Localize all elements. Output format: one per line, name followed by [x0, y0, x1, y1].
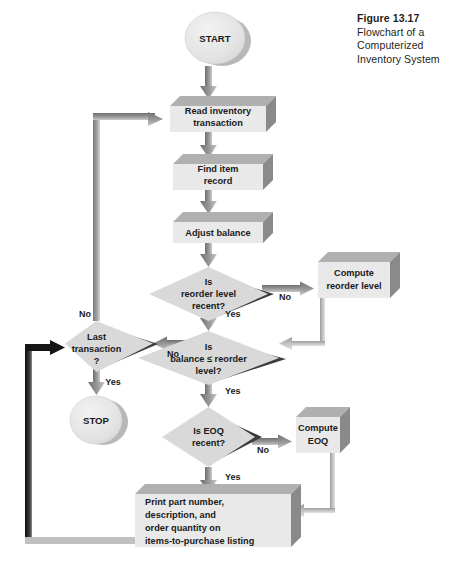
node-balance-line-3: level?	[195, 366, 221, 376]
connector-balance-yes-to-eoq	[200, 382, 217, 407]
branch-label-balance-yes: Yes	[225, 386, 241, 396]
branch-label-eoq-yes: Yes	[225, 472, 241, 482]
node-balance-line-2: balance ≤ reorder	[170, 354, 247, 364]
figure-caption-line-2: Computerized	[357, 39, 469, 53]
node-print-line-3: order quantity on	[145, 523, 221, 533]
node-eoq-line-1: Is EOQ	[193, 426, 224, 436]
connector-adjust-to-reorder-decision	[200, 243, 217, 267]
connector-last-yes-to-stop	[88, 368, 105, 395]
node-compute-eoq-line-1: Compute	[298, 423, 338, 433]
figure-root: Compute reorder level --> Is balance <= …	[0, 0, 474, 572]
node-stop-label: STOP	[83, 415, 110, 426]
node-compute-eoq: Compute EOQ	[296, 407, 350, 453]
node-reorder-line-1: Is	[205, 277, 213, 287]
node-balance-line-1: Is	[205, 342, 213, 352]
node-read-transaction: Read inventory transaction	[170, 96, 276, 132]
node-start: START	[185, 12, 251, 66]
figure-caption: Figure 13.17 Flowchart of a Computerized…	[357, 12, 469, 66]
node-eoq-line-2: recent?	[192, 438, 226, 448]
branch-label-balance-no: No	[167, 349, 179, 359]
node-eoq-recent: Is EOQ recent?	[162, 407, 262, 467]
node-print-line-1: Print part number,	[145, 497, 224, 507]
connector-find-to-adjust	[200, 190, 217, 214]
node-reorder-recent: Is reorder level recent?	[149, 267, 274, 321]
node-last-line-1: Last	[87, 332, 106, 342]
node-print-line-4: items-to-purchase listing	[145, 536, 254, 546]
node-print-line-2: description, and	[145, 510, 216, 520]
node-last-line-2: transaction	[72, 344, 122, 354]
branch-label-reorder-yes: Yes	[225, 309, 241, 319]
node-read-line-1: Read inventory	[185, 106, 252, 116]
node-compute-reorder-line-1: Compute	[334, 268, 374, 278]
node-reorder-line-2: reorder level	[181, 289, 236, 299]
node-start-label: START	[199, 33, 230, 44]
node-compute-reorder-line-2: reorder level	[326, 281, 381, 291]
node-find-item: Find item record	[173, 154, 273, 190]
node-read-line-2: transaction	[193, 118, 243, 128]
connector-last-no-loop-to-read	[93, 112, 163, 321]
connector-start-to-read	[200, 66, 217, 99]
connector-compute-reorder-return	[279, 298, 325, 350]
node-last-line-3: ?	[94, 356, 100, 366]
figure-number: Figure 13.17	[357, 12, 469, 26]
node-stop: STOP	[70, 396, 128, 445]
node-find-line-2: record	[204, 176, 233, 186]
node-balance-check: Is balance ≤ reorder level?	[138, 331, 286, 385]
figure-caption-line-3: Inventory System	[357, 53, 469, 67]
node-compute-eoq-line-2: EOQ	[308, 436, 328, 446]
node-reorder-line-3: recent?	[192, 301, 226, 311]
node-adjust-balance: Adjust balance	[173, 212, 273, 243]
branch-label-reorder-no: No	[279, 292, 291, 302]
node-print-listing: Print part number, description, and orde…	[135, 484, 301, 547]
branch-label-eoq-no: No	[257, 445, 269, 455]
flowchart-diagram: Compute reorder level --> Is balance <= …	[0, 0, 474, 572]
node-compute-reorder: Compute reorder level	[318, 252, 400, 298]
figure-caption-line-1: Flowchart of a	[357, 26, 469, 40]
branch-label-last-no: No	[79, 309, 91, 319]
node-find-line-1: Find item	[198, 164, 239, 174]
connector-print-to-last-loop	[25, 340, 135, 544]
node-last-transaction: Last transaction ?	[65, 321, 158, 372]
node-adjust-label: Adjust balance	[185, 228, 250, 238]
branch-label-last-yes: Yes	[105, 377, 121, 387]
